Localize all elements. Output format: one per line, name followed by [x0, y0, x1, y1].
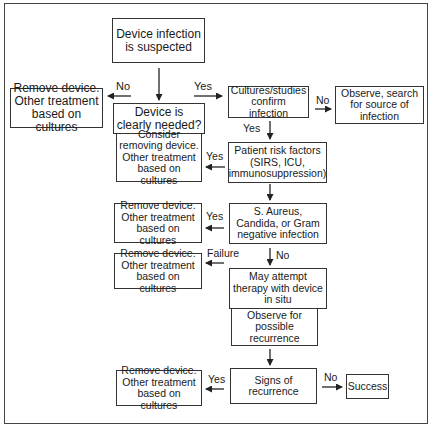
node-remove-device-4: Remove device. Other treatment based on … [116, 370, 202, 406]
edge-label-recurrence-no: No [324, 372, 337, 383]
edge-label-start-no: No [116, 81, 130, 92]
edge-label-risk-yes: Yes [206, 151, 223, 162]
edge-label-recurrence-yes: Yes [208, 374, 225, 385]
edge-label-cultures-yes: Yes [243, 123, 260, 134]
node-cultures-confirm: Cultures/studies confirm infection [228, 86, 309, 118]
node-patient-risk-factors: Patient risk factors (SIRS, ICU, immunos… [228, 142, 327, 183]
node-remove-device-2: Remove device. Other treatment based on … [114, 203, 202, 243]
node-observe-search: Observe, search for source of infection [335, 86, 424, 124]
node-signs-recurrence: Signs of recurrence [230, 368, 317, 404]
node-attempt-therapy: May attempt therapy with device in situ [229, 268, 327, 309]
node-start: Device infection is suspected [112, 18, 205, 63]
edge-label-organisms-no: No [276, 250, 289, 261]
node-success: Success [346, 374, 389, 399]
node-remove-device-3: Remove device. Other treatment based on … [114, 253, 202, 289]
edge-label-organisms-yes: Yes [206, 211, 223, 222]
node-observe-recurrence: Observe for possible recurrence [231, 308, 318, 346]
edge-label-start-yes: Yes [194, 81, 212, 92]
edge-label-cultures-no: No [316, 95, 329, 106]
node-organisms: S. Aureus, Candida, or Gram negative inf… [229, 203, 327, 244]
edge-label-therapy-failure: Failure [207, 248, 239, 259]
node-consider-removing: Consider removing device. Other treatmen… [116, 133, 202, 182]
node-remove-device-1: Remove device. Other treatment based on … [10, 88, 103, 128]
